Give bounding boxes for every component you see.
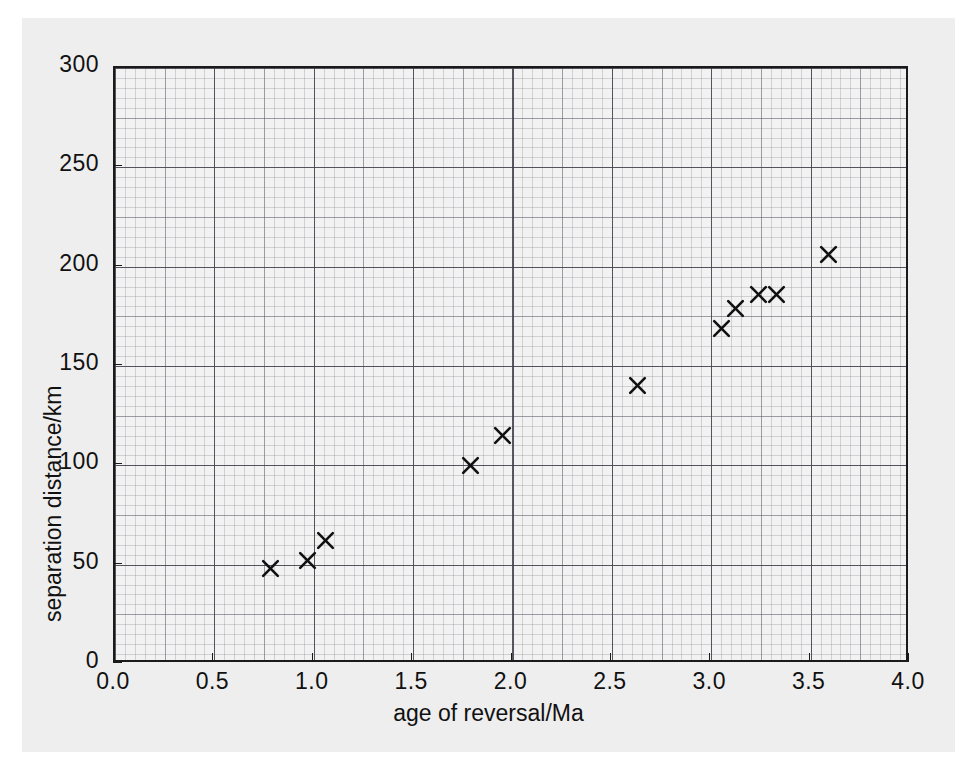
scatter-chart-figure: 0.00.51.01.52.02.53.03.54.0 050100150200… [0, 0, 977, 773]
y-axis-tick [113, 463, 122, 464]
data-points-layer [115, 68, 906, 660]
y-axis-tick [113, 66, 122, 67]
x-axis-tick [610, 653, 611, 662]
x-axis-tick-label: 0.5 [167, 668, 257, 695]
data-point-marker [749, 285, 768, 304]
x-axis-tick [511, 653, 512, 662]
y-axis-tick [113, 165, 122, 166]
data-point-marker [493, 426, 512, 445]
x-axis-tick-label: 1.0 [267, 668, 357, 695]
x-axis-tick [908, 653, 909, 662]
x-axis-tick-label: 2.5 [565, 668, 655, 695]
data-point-marker [316, 531, 335, 550]
y-axis-tick [113, 662, 122, 663]
data-point-marker [767, 285, 786, 304]
x-axis-tick [411, 653, 412, 662]
x-axis-tick-label: 1.5 [366, 668, 456, 695]
data-point-marker [261, 559, 280, 578]
plot-area-wrapper: 0.00.51.01.52.02.53.03.54.0 050100150200… [0, 0, 977, 773]
x-axis-tick [113, 653, 114, 662]
data-point-marker [461, 456, 480, 475]
x-axis-tick-label: 2.0 [466, 668, 556, 695]
x-axis-tick [809, 653, 810, 662]
x-axis-label: age of reversal/Ma [0, 700, 977, 727]
y-axis-label: separation distance/km [40, 385, 67, 622]
x-axis-tick [709, 653, 710, 662]
data-point-marker [298, 551, 317, 570]
x-axis-tick [312, 653, 313, 662]
x-axis-tick-label: 4.0 [863, 668, 953, 695]
x-axis-tick-label: 3.5 [764, 668, 854, 695]
y-axis-tick [113, 364, 122, 365]
x-axis-tick-label: 3.0 [664, 668, 754, 695]
y-axis-tick [113, 265, 122, 266]
y-axis-label-wrapper: separation distance/km [14, 66, 44, 662]
data-point-marker [628, 376, 647, 395]
y-axis-tick [113, 563, 122, 564]
data-point-marker [819, 245, 838, 264]
data-point-marker [712, 319, 731, 338]
plot-frame [113, 66, 908, 662]
data-point-marker [726, 299, 745, 318]
x-axis-tick [212, 653, 213, 662]
